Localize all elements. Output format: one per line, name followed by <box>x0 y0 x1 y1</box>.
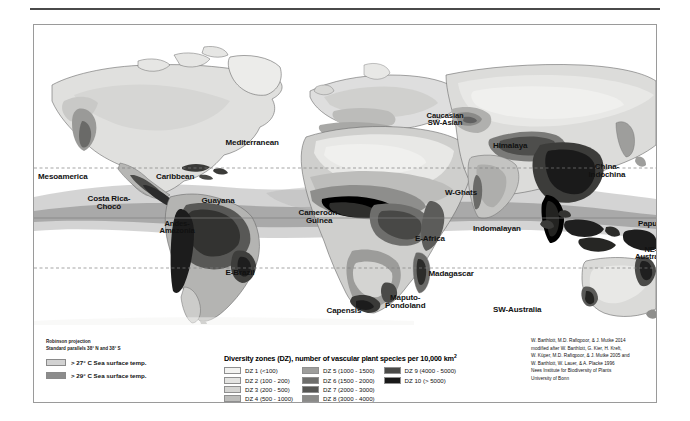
legend-item-label: DZ 7 (2000 - 3000) <box>323 386 375 393</box>
world-map-graphic <box>34 25 656 325</box>
legend-item[interactable]: DZ 1 (<100) <box>224 367 293 374</box>
legend-item-label: DZ 1 (<100) <box>245 367 278 374</box>
top-divider-rule <box>30 8 660 10</box>
figure-page: MesoamericaCaribbeanCosta Rica- ChocóGua… <box>0 0 690 421</box>
legend-columns: DZ 1 (<100)DZ 2 (100 - 200)DZ 3 (200 - 5… <box>224 367 524 402</box>
diversity-zones-legend: Diversity zones (DZ), number of vascular… <box>224 353 524 402</box>
legend-color-swatch <box>302 386 319 393</box>
sst-swatch-29 <box>46 372 66 379</box>
legend-color-swatch <box>384 377 401 384</box>
sst-label-29: > 29° C Sea surface temp. <box>71 372 147 379</box>
legend-item[interactable]: DZ 6 (1500 - 2000) <box>302 377 375 384</box>
legend-item[interactable]: DZ 8 (3000 - 4000) <box>302 395 375 402</box>
sst-label-27: > 27° C Sea surface temp. <box>71 359 147 366</box>
legend-color-swatch <box>224 367 241 374</box>
map-figure-box: MesoamericaCaribbeanCosta Rica- ChocóGua… <box>33 24 657 403</box>
legend-item[interactable]: DZ 3 (200 - 500) <box>224 386 293 393</box>
credit-line: W. Barthlott, W. Lauer, & A. Placke 1996 <box>531 360 655 368</box>
legend-item-label: DZ 10 (> 5000) <box>405 377 446 384</box>
standard-parallels: Standard parallels 38° N and 38° S <box>46 346 196 353</box>
legend-color-swatch <box>302 377 319 384</box>
legend-color-swatch <box>224 386 241 393</box>
legend-item[interactable]: DZ 4 (500 - 1000) <box>224 395 293 402</box>
legend-area: Robinson projection Standard parallels 3… <box>34 325 656 403</box>
projection-name: Robinson projection <box>46 339 196 346</box>
legend-title-text: Diversity zones (DZ), number of vascular… <box>224 354 454 363</box>
legend-item-label: DZ 2 (100 - 200) <box>245 377 290 384</box>
legend-column-3: DZ 9 (4000 - 5000)DZ 10 (> 5000) <box>384 367 457 402</box>
sst-legend-item-27: > 27° C Sea surface temp. <box>46 359 196 366</box>
legend-item-label: DZ 5 (1000 - 1500) <box>323 367 375 374</box>
legend-color-swatch <box>302 367 319 374</box>
projection-info: Robinson projection Standard parallels 3… <box>46 339 196 379</box>
legend-item-label: DZ 9 (4000 - 5000) <box>405 367 457 374</box>
legend-item[interactable]: DZ 7 (2000 - 3000) <box>302 386 375 393</box>
legend-item-label: DZ 3 (200 - 500) <box>245 386 290 393</box>
credit-line: W. Barthlott, M.D. Rafiqpoor, & J. Mutke… <box>531 337 655 345</box>
legend-color-swatch <box>384 367 401 374</box>
sst-swatch-27 <box>46 359 66 366</box>
legend-title: Diversity zones (DZ), number of vascular… <box>224 353 524 363</box>
legend-item-label: DZ 8 (3000 - 4000) <box>323 395 375 402</box>
legend-item-label: DZ 4 (500 - 1000) <box>245 395 293 402</box>
credit-line: modified after W. Barthlott, G. Kier, H.… <box>531 345 655 353</box>
legend-color-swatch <box>224 395 241 402</box>
sst-legend-item-29: > 29° C Sea surface temp. <box>46 372 196 379</box>
legend-column-1: DZ 1 (<100)DZ 2 (100 - 200)DZ 3 (200 - 5… <box>224 367 293 402</box>
legend-color-swatch <box>224 377 241 384</box>
credit-line: W. Küper, M.D. Rafiqpoor, & J. Mutke 200… <box>531 352 655 360</box>
world-map[interactable]: MesoamericaCaribbeanCosta Rica- ChocóGua… <box>34 25 656 325</box>
credit-line: Nees Institute for Biodiversity of Plant… <box>531 367 655 375</box>
legend-item[interactable]: DZ 5 (1000 - 1500) <box>302 367 375 374</box>
legend-item[interactable]: DZ 10 (> 5000) <box>384 377 457 384</box>
legend-title-superscript: 2 <box>454 353 457 359</box>
legend-item-label: DZ 6 (1500 - 2000) <box>323 377 375 384</box>
legend-item[interactable]: DZ 9 (4000 - 5000) <box>384 367 457 374</box>
legend-item[interactable]: DZ 2 (100 - 200) <box>224 377 293 384</box>
credits-block: W. Barthlott, M.D. Rafiqpoor, & J. Mutke… <box>531 337 655 383</box>
legend-column-2: DZ 5 (1000 - 1500)DZ 6 (1500 - 2000)DZ 7… <box>302 367 375 402</box>
legend-color-swatch <box>302 395 319 402</box>
credit-line: University of Bonn <box>531 375 655 383</box>
